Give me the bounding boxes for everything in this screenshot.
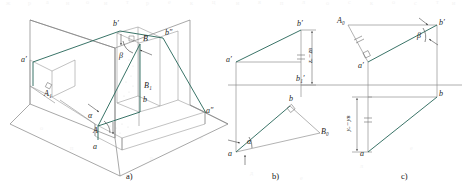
svg-text:л: л <box>302 0 305 5</box>
svg-text:т: т <box>126 0 129 5</box>
label-c-a: a <box>360 150 364 158</box>
label-c-dimension-y: yₐ−yʙ <box>345 116 352 132</box>
label-b-b1-prime: b₁′ <box>296 75 305 83</box>
svg-text:п: п <box>280 0 284 6</box>
svg-text:е: е <box>410 144 413 151</box>
label-a-b-prime: b′ <box>113 20 119 28</box>
label-a-beta: β <box>119 52 123 60</box>
svg-text:ж: ж <box>5 0 11 6</box>
panel-b-alpha-construction <box>228 30 340 165</box>
svg-text:п: п <box>70 144 74 151</box>
svg-text:а: а <box>46 0 49 5</box>
label-a-a: a <box>93 143 97 151</box>
label-c-b: b <box>439 90 443 98</box>
label-b-alpha: α <box>247 138 251 146</box>
panel-c-beta-construction <box>340 18 462 152</box>
label-b-dimension-z: zₐ−zʙ <box>307 48 314 63</box>
label-a-a-double-prime: a″ <box>206 107 213 115</box>
label-a-alpha: α <box>88 112 92 120</box>
label-b-B0: B₀ <box>321 128 329 136</box>
svg-text:с: с <box>414 0 417 6</box>
label-b-a: a <box>228 150 232 158</box>
svg-text:л: л <box>360 162 363 169</box>
label-c-beta: β <box>417 32 421 40</box>
svg-text:е: е <box>168 0 171 5</box>
svg-text:т: т <box>436 0 439 5</box>
label-a-B1: B₁ <box>144 82 152 90</box>
caption-c: c) <box>401 172 408 181</box>
svg-text:ц: ц <box>212 0 216 5</box>
label-a-B: B <box>143 35 148 43</box>
caption-a: a) <box>126 172 133 181</box>
label-c-A0: A₀ <box>337 17 345 25</box>
svg-text:д: д <box>250 169 254 176</box>
svg-text:и: и <box>452 0 456 6</box>
svg-text:р: р <box>146 0 149 6</box>
svg-text:р: р <box>28 0 31 6</box>
label-a-a-prime: a′ <box>21 56 27 64</box>
svg-text:о: о <box>326 0 329 6</box>
svg-text:к: к <box>190 0 194 6</box>
label-a-A1: A₁ <box>44 90 52 98</box>
svg-text:е: е <box>300 174 303 181</box>
label-c-a-prime: a′ <box>358 62 364 70</box>
svg-text:о: о <box>86 0 89 5</box>
label-a-b: b <box>143 96 147 104</box>
svg-text:н: н <box>66 0 70 6</box>
svg-text:о: о <box>392 0 395 5</box>
svg-text:и: и <box>104 0 108 6</box>
label-a-b-double-prime: b″ <box>165 29 172 37</box>
label-c-b-prime: b′ <box>439 19 445 27</box>
label-b-a-prime: a′ <box>226 56 232 64</box>
label-a-A: A <box>93 127 98 135</box>
label-b-b-prime: b′ <box>297 20 303 28</box>
svg-text:с: с <box>348 0 351 5</box>
svg-text:и: и <box>236 0 240 6</box>
svg-text:к: к <box>370 0 374 6</box>
caption-b: b) <box>272 172 279 181</box>
figure-canvas: жра нои тре кци япл оск ост и опр еде ле <box>0 0 462 192</box>
svg-text:о: о <box>40 124 43 131</box>
label-b-b: b <box>289 95 293 103</box>
panel-a-pictorial <box>10 20 228 176</box>
svg-text:я: я <box>258 0 261 5</box>
